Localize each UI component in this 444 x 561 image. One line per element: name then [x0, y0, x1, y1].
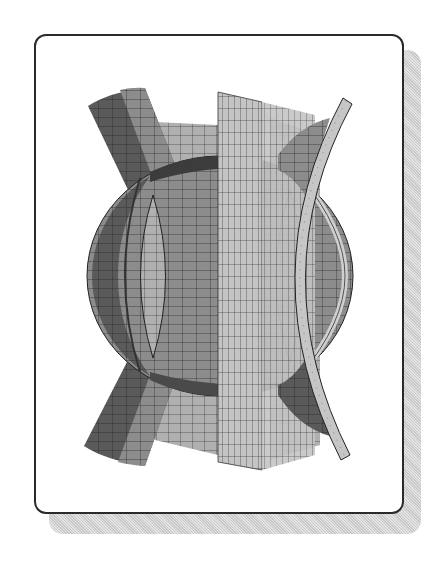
- geometry-figure: [0, 0, 444, 561]
